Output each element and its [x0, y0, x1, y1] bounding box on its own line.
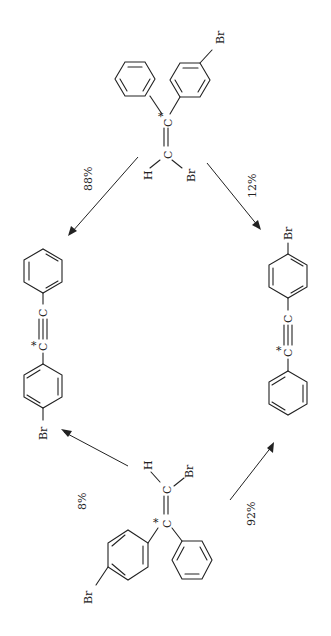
- br-label: Br: [214, 30, 227, 44]
- arrow-top-left: [68, 157, 138, 236]
- phenyl-ring-icon: [172, 541, 212, 579]
- reaction-scheme: Br * C C H Br 88% 12% C: [0, 0, 331, 636]
- br-label: Br: [37, 426, 50, 440]
- left-product: C * C Br: [24, 249, 62, 440]
- br-label: Br: [183, 464, 196, 478]
- arrow-bottom-right: [230, 442, 274, 500]
- yield-88-label: 88%: [82, 167, 95, 191]
- right-product: Br C * C: [269, 226, 307, 415]
- bromophenyl-ring-icon: [96, 530, 148, 585]
- bottom-reactant: H Br C * C Br: [82, 460, 212, 604]
- c-label: C: [282, 349, 295, 357]
- h-label: H: [142, 460, 155, 470]
- br-label: Br: [185, 168, 198, 182]
- phenyl-ring-icon: [24, 249, 62, 293]
- top-reactant: Br * C C H Br: [115, 30, 227, 182]
- br-label: Br: [282, 226, 295, 240]
- star-c-label: *: [153, 516, 159, 529]
- c-label: C: [161, 520, 174, 528]
- yield-12-label: 12%: [246, 174, 259, 198]
- phenyl-ring-icon: [115, 62, 155, 96]
- phenyl-ring-icon: [269, 371, 307, 415]
- bromophenyl-ring-icon: [170, 50, 212, 97]
- br-label: Br: [82, 590, 95, 604]
- bromophenyl-ring-icon: [24, 364, 62, 408]
- c-label: C: [162, 151, 175, 159]
- c-label: C: [37, 309, 50, 317]
- yield-8-label: 8%: [76, 493, 89, 510]
- c-label: C: [162, 119, 175, 127]
- c-label: C: [282, 315, 295, 323]
- c-label: C: [161, 486, 174, 494]
- c-label: C: [37, 343, 50, 351]
- h-label: H: [142, 170, 155, 180]
- arrow-bottom-left: [61, 429, 128, 466]
- yield-92-label: 92%: [245, 502, 258, 526]
- bromophenyl-ring-icon: [269, 254, 307, 298]
